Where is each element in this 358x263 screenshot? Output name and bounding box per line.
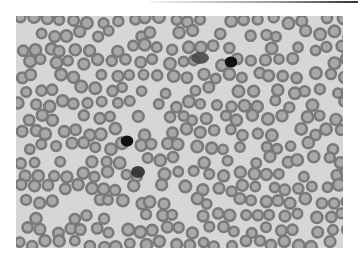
red-blood-cell [34,198,45,209]
red-blood-cell [37,139,47,149]
small-lymphocyte-middle [121,136,134,147]
red-blood-cell [269,16,279,22]
red-blood-cell [251,182,260,191]
red-blood-cell [57,95,68,106]
red-blood-cell [237,73,246,82]
red-blood-cell [39,235,50,246]
red-blood-cell [164,58,175,69]
red-blood-cell [25,69,36,80]
red-blood-cell [113,71,123,81]
red-blood-cell [205,222,215,232]
red-blood-cell [270,183,279,192]
red-blood-cell [241,236,251,246]
red-blood-cell [261,222,271,232]
red-blood-cell [74,26,85,37]
red-blood-cell [271,96,280,105]
red-blood-cell [284,198,295,209]
red-blood-cell [25,145,34,154]
red-blood-cell [98,183,109,194]
red-blood-cell [310,67,322,79]
red-blood-cell [253,210,263,220]
red-blood-cell [107,56,117,66]
red-blood-cell [75,224,85,234]
red-blood-cell [83,98,93,108]
red-blood-cell [198,211,209,222]
red-blood-cell [261,196,272,207]
red-blood-cell [204,82,214,92]
red-blood-cell [303,137,314,148]
red-blood-cell [51,57,63,69]
red-blood-cell [128,41,138,51]
red-blood-cell [293,43,302,52]
red-blood-cell [262,113,274,125]
red-blood-cell [202,199,211,208]
red-blood-cell [330,114,341,125]
red-blood-cell [122,224,134,236]
red-blood-cell [90,172,100,182]
red-blood-cell [213,208,223,218]
red-blood-cell [183,42,194,53]
red-blood-cell [139,16,150,23]
red-blood-cell [118,83,127,92]
red-blood-cell [79,110,89,120]
red-blood-cell [104,26,113,35]
red-blood-cell [339,72,343,83]
red-blood-cell [201,113,212,124]
red-blood-cell [36,54,46,64]
red-blood-cell [224,210,235,221]
platelet-clump-lower [131,166,145,178]
red-blood-cell [292,73,302,83]
red-blood-cell [47,115,58,126]
red-blood-cell [287,225,297,235]
red-blood-cell [143,153,153,163]
small-lymphocyte-upper [225,57,238,68]
red-blood-cell [212,100,222,110]
red-blood-cell [104,228,113,237]
red-blood-cell [174,223,184,233]
red-blood-cell [328,225,338,235]
red-blood-cell [251,158,261,168]
red-blood-cell [249,168,260,179]
red-blood-cell [187,228,198,239]
red-blood-cell [124,70,133,79]
red-blood-cell [335,157,343,168]
red-blood-cell [266,43,277,54]
red-blood-cell [264,210,274,220]
red-blood-cell [29,180,40,191]
red-blood-cell [338,16,343,24]
red-blood-cell [146,139,156,149]
red-blood-cell [16,158,26,168]
red-blood-cell [322,42,332,52]
red-blood-cell [54,235,65,246]
red-blood-cell [78,59,89,70]
red-blood-cell [307,99,318,110]
red-blood-cell [68,16,78,26]
red-blood-cell [224,43,234,53]
red-blood-cell [139,39,151,51]
red-blood-cell [336,125,343,135]
red-blood-cell [208,40,218,50]
red-blood-cell [305,241,316,248]
red-blood-cell [110,185,120,195]
red-blood-cell [223,156,232,165]
red-blood-cell [59,126,70,137]
red-blood-cell [265,151,276,162]
red-blood-cell [286,141,295,150]
red-blood-cell [221,111,231,121]
red-blood-cell [95,113,105,123]
red-blood-cell [156,179,167,190]
red-blood-cell [95,129,107,141]
red-blood-cell [105,144,116,155]
red-blood-cell [271,32,280,41]
red-blood-cell [325,153,335,163]
red-blood-cell [191,86,200,95]
red-blood-cell [246,196,256,206]
red-blood-cell [162,222,173,233]
red-blood-cell [107,86,117,96]
red-blood-cell [92,223,102,233]
red-blood-cell [233,86,244,97]
red-blood-cell [192,141,203,152]
red-blood-cell [261,169,272,180]
red-blood-cell [141,209,151,219]
red-blood-cell [61,172,72,183]
